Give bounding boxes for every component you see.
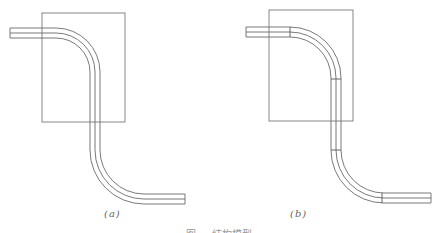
panel-a-label: (a) bbox=[104, 208, 121, 219]
pipe-b bbox=[246, 27, 431, 203]
pipe-a bbox=[10, 28, 185, 204]
pipe-b-center-line bbox=[246, 32, 431, 198]
region-frame-a bbox=[42, 13, 125, 122]
panel-b-label: (b) bbox=[290, 208, 307, 219]
diagram-canvas bbox=[0, 0, 438, 233]
panel-b bbox=[246, 10, 431, 203]
panel-a bbox=[10, 13, 185, 204]
figure-caption: 图 … 结构模型 bbox=[0, 226, 438, 233]
pipe-b-outer-wall bbox=[246, 27, 431, 193]
pipe-a-outer-wall bbox=[10, 28, 185, 194]
pipe-a-inner-wall bbox=[10, 38, 185, 204]
